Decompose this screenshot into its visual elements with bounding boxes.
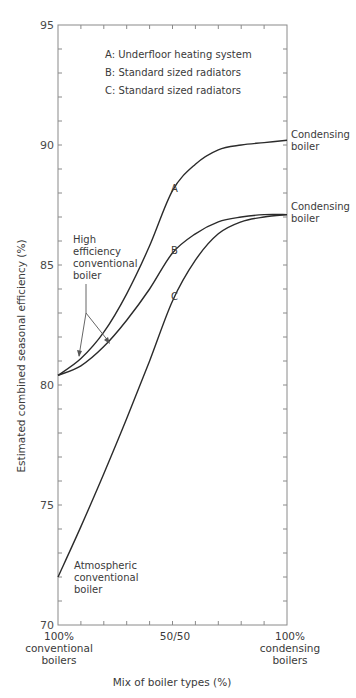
annot-cond-bottom-line1: Condensing: [291, 201, 350, 212]
axis-ticks: [58, 25, 287, 625]
x-axis-tick-labels: 100% conventional boilers 50/50 100% con…: [25, 630, 320, 666]
annot-high-line3: conventional: [73, 258, 137, 269]
efficiency-line-chart: 95 90 85 80 75 70 Estimated combined sea…: [0, 0, 356, 698]
annot-atmo-line1: Atmospheric: [74, 560, 137, 571]
xtick-left-line1: 100%: [44, 630, 74, 642]
annotation-high-efficiency: High efficiency conventional boiler: [73, 234, 137, 357]
curve-label-a: A: [171, 183, 178, 194]
legend-entry-a: A: Underfloor heating system: [105, 49, 252, 60]
ytick-85: 85: [40, 259, 54, 272]
curve-label-c: C: [171, 291, 178, 302]
xtick-right-line1: 100%: [275, 630, 305, 642]
annot-high-line4: boiler: [73, 270, 102, 281]
y-axis-title: Estimated combined seasonal efficiency (…: [15, 239, 27, 472]
annotation-atmospheric: Atmospheric conventional boiler: [74, 560, 138, 595]
annot-atmo-line3: boiler: [74, 584, 103, 595]
xtick-left-line2: conventional: [25, 642, 93, 654]
annot-high-line1: High: [73, 234, 96, 245]
arrow-to-curve-a: [79, 284, 86, 356]
legend: A: Underfloor heating system B: Standard…: [105, 49, 252, 96]
ytick-75: 75: [40, 499, 54, 512]
plot-frame: [58, 25, 287, 625]
x-axis-title: Mix of boiler types (%): [113, 676, 231, 688]
ytick-95: 95: [40, 19, 54, 32]
legend-entry-b: B: Standard sized radiators: [105, 67, 241, 78]
xtick-right-line3: boilers: [272, 654, 307, 666]
xtick-mid: 50/50: [160, 630, 190, 642]
legend-entry-c: C: Standard sized radiators: [105, 85, 241, 96]
ytick-80: 80: [40, 379, 54, 392]
curve-label-b: B: [171, 245, 178, 256]
annotation-condensing-bottom: Condensing boiler: [291, 201, 350, 224]
xtick-left-line3: boilers: [41, 654, 76, 666]
annotation-condensing-top: Condensing boiler: [291, 129, 350, 152]
arrow-to-curve-b: [86, 313, 109, 342]
annot-atmo-line2: conventional: [74, 572, 138, 583]
annot-cond-bottom-line2: boiler: [291, 213, 320, 224]
arrowhead-a-icon: [77, 350, 82, 357]
y-axis-tick-labels: 95 90 85 80 75 70: [40, 19, 54, 632]
annot-high-line2: efficiency: [73, 246, 121, 257]
xtick-right-line2: condensing: [260, 642, 320, 654]
annot-cond-top-line1: Condensing: [291, 129, 350, 140]
ytick-90: 90: [40, 139, 54, 152]
annot-cond-top-line2: boiler: [291, 141, 320, 152]
